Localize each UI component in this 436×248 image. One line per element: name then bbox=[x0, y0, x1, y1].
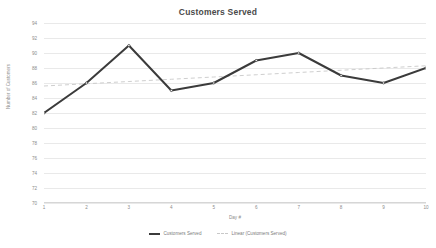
series-layer bbox=[44, 23, 426, 203]
gridline bbox=[44, 203, 426, 204]
x-axis-tick-label: 9 bbox=[382, 205, 385, 210]
y-axis-tick-label: 84 bbox=[32, 96, 37, 101]
y-axis-tick-labels: 70727476788082848688909294 bbox=[0, 23, 42, 203]
data-point-marker bbox=[382, 82, 384, 84]
x-axis-tick-label: 4 bbox=[170, 205, 173, 210]
data-point-marker bbox=[128, 44, 130, 46]
x-axis-tick-label: 2 bbox=[85, 205, 88, 210]
line-series-customers-served bbox=[44, 46, 426, 114]
data-point-marker bbox=[85, 82, 87, 84]
data-point-marker bbox=[340, 74, 342, 76]
data-point-marker bbox=[44, 112, 45, 114]
y-axis-tick-label: 72 bbox=[32, 186, 37, 191]
chart-title: Customers Served bbox=[0, 7, 436, 17]
y-axis-tick-label: 74 bbox=[32, 171, 37, 176]
legend-item-linear-customers-served[interactable]: Linear (Customers Served) bbox=[217, 231, 286, 236]
y-axis-tick-label: 90 bbox=[32, 51, 37, 56]
data-point-marker bbox=[255, 59, 257, 61]
x-axis-tick-label: 5 bbox=[212, 205, 215, 210]
x-axis-tick-label: 3 bbox=[128, 205, 131, 210]
y-axis-tick-label: 78 bbox=[32, 141, 37, 146]
data-point-marker bbox=[213, 82, 215, 84]
legend-label: Linear (Customers Served) bbox=[231, 231, 286, 236]
x-axis-tick-labels: 12345678910 bbox=[44, 205, 426, 215]
x-axis-title: Day # bbox=[44, 215, 426, 220]
data-point-marker bbox=[425, 67, 426, 69]
legend-item-customers-served[interactable]: Customers Served bbox=[149, 231, 201, 236]
data-point-marker bbox=[170, 89, 172, 91]
chart-container: Customers Served Number of Customers 707… bbox=[0, 0, 436, 248]
x-axis-tick-label: 8 bbox=[340, 205, 343, 210]
y-axis-tick-label: 70 bbox=[32, 201, 37, 206]
chart-legend: Customers Served Linear (Customers Serve… bbox=[0, 231, 436, 236]
legend-swatch-solid-icon bbox=[149, 233, 160, 235]
legend-swatch-dashed-icon bbox=[217, 233, 228, 234]
y-axis-tick-label: 82 bbox=[32, 111, 37, 116]
y-axis-tick-label: 92 bbox=[32, 36, 37, 41]
y-axis-tick-label: 80 bbox=[32, 126, 37, 131]
x-axis-tick-label: 1 bbox=[43, 205, 46, 210]
y-axis-tick-label: 76 bbox=[32, 156, 37, 161]
y-axis-tick-label: 86 bbox=[32, 81, 37, 86]
x-axis-tick-label: 6 bbox=[255, 205, 258, 210]
y-axis-tick-label: 94 bbox=[32, 21, 37, 26]
y-axis-tick-label: 88 bbox=[32, 66, 37, 71]
x-axis-tick-label: 7 bbox=[297, 205, 300, 210]
data-point-markers bbox=[44, 44, 426, 114]
legend-label: Customers Served bbox=[163, 231, 201, 236]
data-point-marker bbox=[298, 52, 300, 54]
x-axis-tick-label: 10 bbox=[423, 205, 428, 210]
